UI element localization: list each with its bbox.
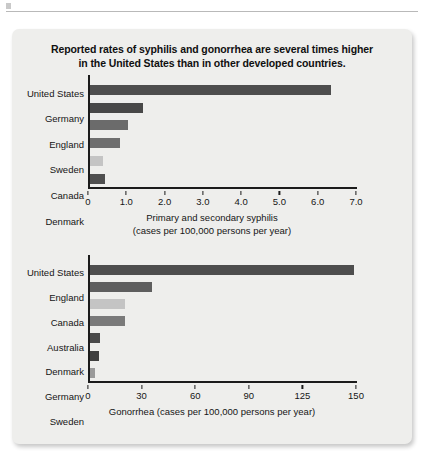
x-tick-mark (141, 385, 142, 389)
bar (90, 103, 144, 113)
bar (90, 282, 153, 292)
chart-gonorrhea-x-axis-label-line-1: Gonorrhea (cases per 100,000 persons per… (12, 406, 412, 419)
category-label: Germany (12, 392, 84, 402)
bar-row (90, 156, 356, 166)
bar-row (90, 85, 356, 95)
figure-title-line-2: in the United States than in other devel… (12, 56, 412, 70)
x-tick-label: 0 (85, 390, 90, 401)
chart-gonorrhea-x-axis-line (88, 381, 357, 383)
category-label: United States (12, 268, 84, 278)
category-label: Canada (12, 191, 84, 201)
chart-gonorrhea-x-axis-label: Gonorrhea (cases per 100,000 persons per… (12, 406, 412, 419)
bar (90, 120, 128, 130)
x-tick-label: 5.0 (273, 196, 286, 207)
x-tick-mark (279, 191, 280, 195)
x-tick-label: 30 (136, 390, 147, 401)
bar-row (90, 265, 356, 275)
x-tick-label: 6.0 (311, 196, 324, 207)
category-label: United States (12, 89, 84, 99)
bar-row (90, 316, 356, 326)
bar (90, 85, 331, 95)
bar (90, 333, 101, 343)
bar-row (90, 299, 356, 309)
bar (90, 368, 95, 378)
x-tick-label: 4.0 (235, 196, 248, 207)
bar (90, 351, 99, 361)
x-tick-label: 2.0 (158, 196, 171, 207)
bar-row (90, 120, 356, 130)
x-tick-mark (355, 191, 356, 195)
bar (90, 156, 103, 166)
chart-gonorrhea-plot-area (88, 261, 356, 383)
category-label: Australia (12, 343, 84, 353)
category-label: England (12, 140, 84, 150)
x-tick-label: 0 (85, 196, 90, 207)
x-tick-mark (87, 385, 88, 389)
x-tick-mark (202, 191, 203, 195)
x-tick-label: 1.0 (120, 196, 133, 207)
x-tick-mark (302, 385, 303, 389)
figure-card: Reported rates of syphilis and gonorrhea… (12, 29, 412, 444)
category-label: Denmark (12, 367, 84, 377)
x-tick-mark (87, 191, 88, 195)
bar (90, 138, 121, 148)
chart-syphilis-plot-area (88, 81, 356, 189)
chart-syphilis-x-axis-line (88, 187, 357, 189)
page-corner-mark (6, 3, 11, 9)
chart-syphilis-x-axis-label-line-1: Primary and secondary syphilis (12, 212, 412, 225)
x-tick-label: 90 (244, 390, 255, 401)
bar-row (90, 368, 356, 378)
page-top-rule (6, 11, 418, 12)
x-tick-label: 60 (190, 390, 201, 401)
figure-title-line-1: Reported rates of syphilis and gonorrhea… (12, 42, 412, 56)
bar-row (90, 138, 356, 148)
x-tick-mark (317, 191, 318, 195)
bar (90, 174, 105, 184)
x-tick-mark (164, 191, 165, 195)
x-tick-mark (355, 385, 356, 389)
x-tick-mark (126, 191, 127, 195)
chart-syphilis: United StatesGermanyEnglandSwedenCanadaD… (12, 81, 412, 236)
chart-syphilis-x-axis-label-line-2: (cases per 100,000 persons per year) (12, 225, 412, 238)
x-tick-mark (195, 385, 196, 389)
bar (90, 265, 354, 275)
bar (90, 299, 126, 309)
bar-row (90, 333, 356, 343)
x-tick-label: 125 (294, 390, 310, 401)
chart-syphilis-x-axis-label: Primary and secondary syphilis (cases pe… (12, 212, 412, 237)
chart-gonorrhea-bars (90, 261, 356, 381)
figure-title: Reported rates of syphilis and gonorrhea… (12, 42, 412, 70)
category-label: England (12, 293, 84, 303)
bar-row (90, 103, 356, 113)
x-tick-label: 3.0 (196, 196, 209, 207)
category-label: Germany (12, 114, 84, 124)
bar-row (90, 282, 356, 292)
category-label: Sweden (12, 165, 84, 175)
bar-row (90, 174, 356, 184)
x-tick-mark (248, 385, 249, 389)
x-tick-label: 7.0 (349, 196, 362, 207)
chart-gonorrhea: United StatesEnglandCanadaAustraliaDenma… (12, 261, 412, 436)
chart-syphilis-bars (90, 81, 356, 187)
bar-row (90, 351, 356, 361)
x-tick-mark (241, 191, 242, 195)
bar (90, 316, 126, 326)
category-label: Canada (12, 318, 84, 328)
x-tick-label: 150 (348, 390, 364, 401)
